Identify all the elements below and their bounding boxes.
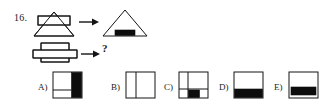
input-overlap-rectangle-shape [38,16,70,25]
figure-layer [0,0,323,105]
option-a-black-right-band [72,73,82,98]
arrow-head-row2 [93,51,100,58]
option-e-figure[interactable] [289,72,318,98]
option-e-black-inset-band [291,87,316,95]
option-d-figure[interactable] [234,72,263,98]
option-c-figure[interactable] [179,72,208,98]
prompt-row1-input [34,12,74,36]
option-b-figure[interactable] [126,72,155,98]
input-wide-rectangle-shape [33,50,77,58]
transform-arrow-row2 [81,51,100,58]
option-d-black-bottom-band [235,89,263,98]
output-black-base-rectangle [115,30,135,35]
transform-arrow-row1 [79,19,99,26]
prompt-row1-output [103,10,147,36]
prompt-row2-input [33,43,77,62]
arrow-head-row1 [92,19,99,26]
option-a-figure[interactable] [53,72,82,98]
puzzle-question-16: 16. ? A) B) C) D) E) [0,0,323,105]
option-c-black-block [189,90,200,98]
option-b-outer-square[interactable] [126,72,155,98]
